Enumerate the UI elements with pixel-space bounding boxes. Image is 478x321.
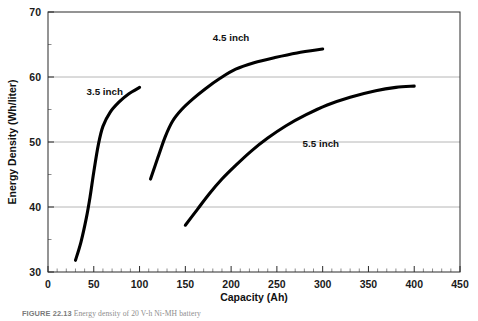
- x-tick-label-50: 50: [88, 278, 100, 290]
- y-axis-title: Energy Density (Wh/liter): [6, 80, 18, 205]
- figure-caption: FIGURE 22.13 Energy density of 20 V-h Ni…: [22, 309, 462, 318]
- x-tick-label-350: 350: [360, 278, 378, 290]
- y-tick-label-50: 50: [29, 136, 41, 148]
- x-tick-label-150: 150: [177, 278, 195, 290]
- y-tick-label-70: 70: [29, 6, 41, 18]
- figure-caption-text: Energy density of 20 V-h Ni-MH battery: [74, 309, 201, 318]
- curve-4-5-inch: [151, 49, 323, 179]
- curve-5-5-inch: [185, 86, 414, 225]
- x-tick-label-450: 450: [451, 278, 469, 290]
- y-tick-label-40: 40: [29, 201, 41, 213]
- curve-3-5-inch: [75, 87, 139, 260]
- y-tick-label-30: 30: [29, 266, 41, 278]
- energy-density-capacity-chart: 0501001502002503003504004503040506070 3.…: [0, 0, 478, 321]
- x-tick-label-400: 400: [405, 278, 423, 290]
- series-label-4-5-inch: 4.5 inch: [213, 32, 249, 43]
- y-tick-label-60: 60: [29, 71, 41, 83]
- figure-container: 0501001502002503003504004503040506070 3.…: [0, 0, 478, 321]
- x-tick-label-100: 100: [131, 278, 149, 290]
- x-tick-label-300: 300: [314, 278, 332, 290]
- x-axis-title: Capacity (Ah): [220, 291, 288, 303]
- series-annotations: 3.5 inch4.5 inch5.5 inch: [87, 32, 340, 149]
- axis-tick-labels: 0501001502002503003504004503040506070: [29, 6, 469, 290]
- x-tick-label-200: 200: [222, 278, 240, 290]
- x-tick-label-0: 0: [45, 278, 51, 290]
- series-label-5-5-inch: 5.5 inch: [303, 138, 339, 149]
- x-tick-label-250: 250: [268, 278, 286, 290]
- series-label-3-5-inch: 3.5 inch: [87, 86, 123, 97]
- figure-caption-number: FIGURE 22.13: [22, 309, 72, 318]
- data-curves: [75, 49, 414, 260]
